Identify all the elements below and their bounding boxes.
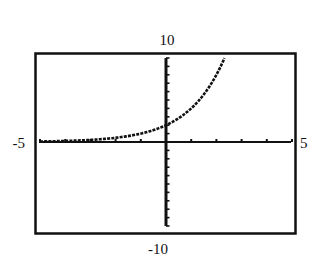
xmin-label: -5	[13, 135, 26, 151]
ymax-label: 10	[160, 32, 175, 48]
xmax-label: 5	[300, 135, 308, 151]
ymin-label: -10	[148, 241, 168, 257]
axes	[39, 58, 291, 226]
graph-canvas: 10 -10 -5 5	[0, 0, 315, 267]
function-curve	[40, 58, 224, 141]
